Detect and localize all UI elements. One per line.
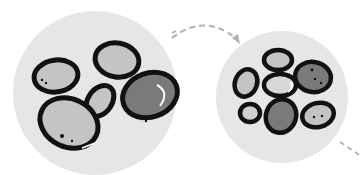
dashed-arrow-icon xyxy=(172,25,240,44)
dashed-entry-line xyxy=(172,31,176,33)
dashed-exit-line xyxy=(340,142,361,156)
stone xyxy=(264,50,292,70)
pebbles-illustration xyxy=(0,0,361,175)
stone xyxy=(240,104,260,122)
